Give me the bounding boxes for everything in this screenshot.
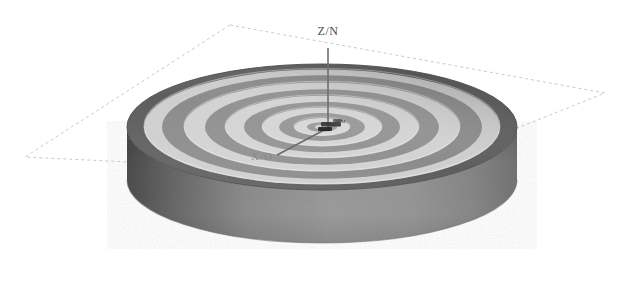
x-axis-label: X/O (251, 150, 273, 162)
y-axis-label: Y/M (336, 119, 346, 124)
z-axis-label: Z/N (318, 24, 339, 38)
figure-canvas: Z/N X/O Y/M (0, 0, 644, 300)
cylinder-fringe-figure: Z/N X/O Y/M (0, 0, 644, 300)
